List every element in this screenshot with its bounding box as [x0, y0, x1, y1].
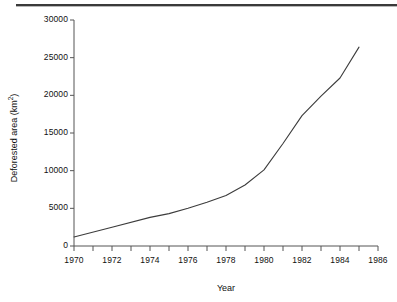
x-axis-tick-label: 1986 [358, 255, 397, 265]
x-axis-tick-label: 1980 [244, 255, 284, 265]
x-axis-tick-label: 1984 [320, 255, 360, 265]
y-axis-title-exponent: 2 [7, 97, 14, 101]
x-axis-tick-label: 1970 [54, 255, 94, 265]
y-axis-title-base: Deforested area (km [9, 100, 19, 182]
y-axis-tick-label: 10000 [18, 165, 68, 175]
y-axis-title-tail: ) [9, 94, 19, 97]
x-axis-ticks [74, 246, 378, 251]
chart-figure: 050001000015000200002500030000 197019721… [0, 0, 397, 302]
y-axis-tick-label: 30000 [18, 14, 68, 24]
y-axis-tick-label: 5000 [18, 202, 68, 212]
x-axis-title: Year [146, 283, 306, 293]
x-axis-tick-label: 1978 [206, 255, 246, 265]
y-axis-title: Deforested area (km2) [7, 78, 19, 198]
x-axis-tick-label: 1976 [168, 255, 208, 265]
y-axis-ticks [70, 20, 74, 246]
y-axis-tick-label: 15000 [18, 127, 68, 137]
y-axis-tick-label: 0 [18, 240, 68, 250]
chart-axes [74, 20, 378, 246]
data-line-deforested-area [74, 47, 359, 237]
x-axis-tick-label: 1982 [282, 255, 322, 265]
x-axis-tick-label: 1972 [92, 255, 132, 265]
y-axis-tick-label: 20000 [18, 89, 68, 99]
x-axis-tick-label: 1974 [130, 255, 170, 265]
data-series-group [74, 47, 359, 237]
y-axis-tick-label: 25000 [18, 52, 68, 62]
